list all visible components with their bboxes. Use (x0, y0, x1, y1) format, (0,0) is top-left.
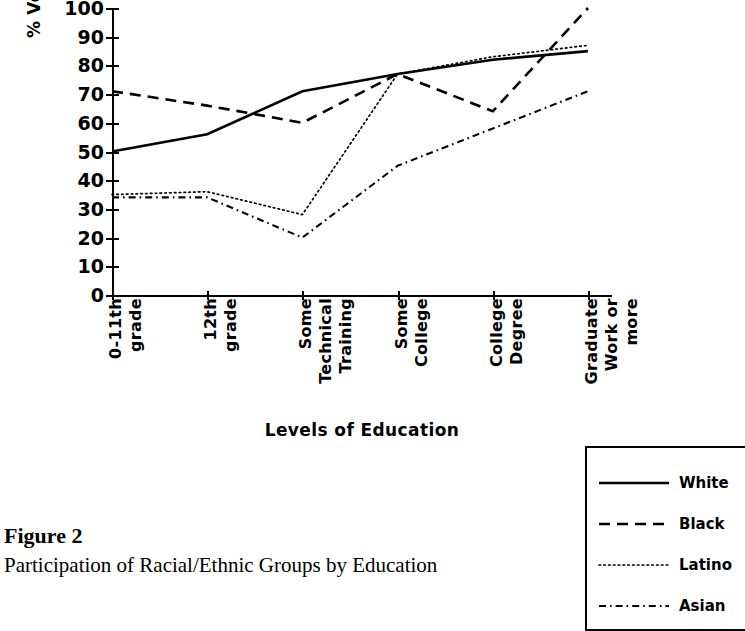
y-tick-label: 100 (64, 0, 104, 18)
y-tick-label: 30 (78, 199, 104, 218)
y-tick-label: 60 (78, 113, 104, 132)
x-category-label: GraduateWork ormore (582, 298, 642, 416)
x-category-label: SomeCollege (392, 298, 432, 416)
x-category-word: grade (221, 298, 240, 352)
x-category-label: CollegeDegree (487, 298, 527, 416)
y-tick-mark (106, 65, 119, 67)
x-category-word: College (487, 298, 506, 367)
y-tick-mark (106, 152, 119, 154)
x-category-word: Training (336, 298, 355, 373)
figure-caption: Figure 2 Participation of Racial/Ethnic … (4, 523, 574, 578)
y-axis-title: % Voting of Eligible Voters (24, 0, 44, 38)
figure-number: Figure 2 (4, 523, 574, 549)
series-line-black (112, 8, 588, 123)
x-category-word: Some (296, 298, 315, 349)
y-tick-label: 70 (78, 85, 104, 104)
legend-line-sample-icon (597, 477, 671, 489)
y-axis-tick-labels: 0102030405060708090100 (46, 8, 104, 296)
legend-line-sample-icon (597, 559, 671, 571)
y-tick-mark (106, 180, 119, 182)
y-tick-label: 20 (78, 228, 104, 247)
x-axis-title: Levels of Education (112, 420, 612, 440)
x-category-word: more (622, 298, 641, 346)
legend-item-label: Latino (679, 556, 732, 574)
chart-plot-area: % Voting of Eligible Voters 010203040506… (112, 8, 612, 296)
x-category-word: Work or (602, 298, 621, 371)
y-tick-mark (106, 266, 119, 268)
y-tick-mark (106, 8, 119, 10)
x-axis-category-labels: 0-11thgrade12thgradeSomeTechnicalTrainin… (112, 298, 632, 418)
legend-item-asian[interactable]: Asian (597, 595, 745, 617)
y-tick-mark (106, 37, 119, 39)
legend-item-label: Asian (679, 597, 725, 615)
x-category-label: SomeTechnicalTraining (296, 298, 356, 416)
x-category-word: 0-11th (106, 298, 125, 359)
series-lines (112, 8, 612, 297)
y-tick-label: 10 (78, 257, 104, 276)
x-category-word: Graduate (582, 298, 601, 384)
y-tick-label: 50 (78, 142, 104, 161)
legend-line-sample-icon (597, 518, 671, 530)
y-tick-mark (106, 94, 119, 96)
y-tick-label: 0 (91, 286, 104, 305)
legend-item-latino[interactable]: Latino (597, 554, 745, 576)
series-line-asian (112, 91, 588, 237)
legend-item-label: Black (679, 515, 725, 533)
y-tick-mark (106, 123, 119, 125)
chart-legend: WhiteBlackLatinoAsian (585, 446, 745, 631)
x-category-word: 12th (201, 298, 220, 341)
y-tick-label: 80 (78, 56, 104, 75)
x-category-word: College (412, 298, 431, 367)
legend-item-white[interactable]: White (597, 472, 745, 494)
figure-caption-text: Participation of Racial/Ethnic Groups by… (4, 553, 574, 578)
y-tick-mark (106, 209, 119, 211)
x-category-word: grade (126, 298, 145, 352)
x-category-word: Technical (316, 298, 335, 384)
y-tick-mark (106, 238, 119, 240)
legend-item-label: White (679, 474, 729, 492)
legend-item-black[interactable]: Black (597, 513, 745, 535)
x-category-word: Some (392, 298, 411, 349)
x-category-label: 0-11thgrade (106, 298, 146, 416)
y-tick-label: 40 (78, 171, 104, 190)
x-category-label: 12thgrade (201, 298, 241, 416)
legend-line-sample-icon (597, 600, 671, 612)
x-category-word: Degree (507, 298, 526, 365)
series-line-latino (112, 45, 588, 214)
y-tick-label: 90 (78, 27, 104, 46)
